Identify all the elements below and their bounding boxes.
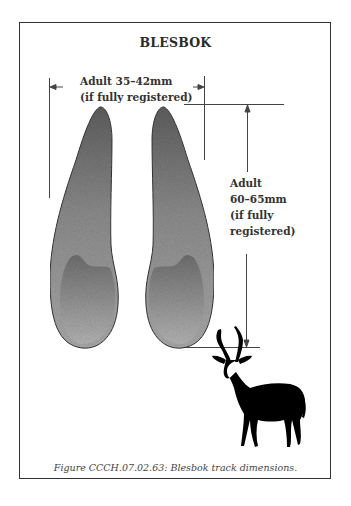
right-hoof-print	[146, 107, 214, 348]
left-hoof-print	[50, 107, 118, 348]
figure-caption: Figure CCCH.07.02.63: Blesbok track dime…	[0, 462, 351, 473]
track-illustration	[0, 0, 351, 506]
blesbok-silhouette	[212, 326, 306, 447]
